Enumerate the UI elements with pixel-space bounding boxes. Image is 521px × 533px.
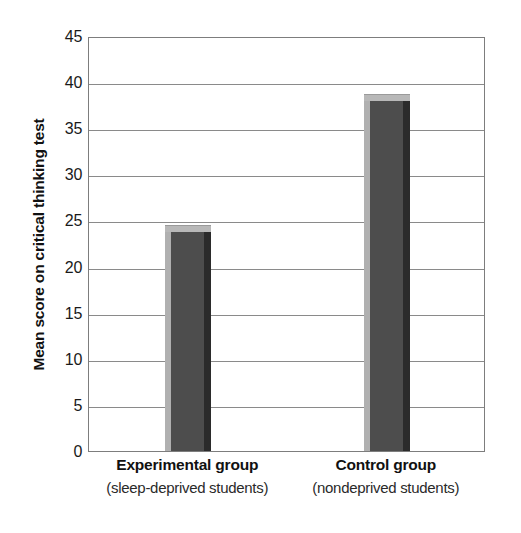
- x-axis-category-label: Experimental group: [88, 455, 287, 474]
- gridline: [89, 361, 484, 362]
- y-axis-tick-labels: 454035302520151050: [44, 37, 82, 452]
- gridline: [89, 84, 484, 85]
- bar-front-face: [370, 101, 403, 451]
- y-axis-tick-label: 10: [44, 352, 82, 368]
- y-axis-tick-label: 45: [44, 29, 82, 45]
- bar-chart-figure: Mean score on critical thinking test 454…: [0, 0, 521, 533]
- x-axis-category-sublabel: (sleep-deprived students): [88, 478, 287, 497]
- y-axis-tick-label: 5: [44, 398, 82, 414]
- plot-area: [88, 37, 485, 452]
- gridline: [89, 176, 484, 177]
- x-axis-category-labels: Experimental group(sleep-deprived studen…: [88, 455, 485, 515]
- y-axis-tick-label: 20: [44, 260, 82, 276]
- y-axis-tick-label: 35: [44, 121, 82, 137]
- y-axis-tick-label: 0: [44, 444, 82, 460]
- gridline: [89, 222, 484, 223]
- x-axis-category-sublabel: (nondeprived students): [287, 478, 486, 497]
- gridline: [89, 315, 484, 316]
- bar[interactable]: [165, 225, 211, 451]
- bar-right-shadow: [204, 232, 211, 451]
- gridline: [89, 130, 484, 131]
- y-axis-tick-label: 30: [44, 167, 82, 183]
- x-axis-category-label: Control group: [287, 455, 486, 474]
- x-axis-label-group: Control group(nondeprived students): [287, 455, 486, 497]
- bar-front-face: [171, 232, 204, 451]
- x-axis-label-group: Experimental group(sleep-deprived studen…: [88, 455, 287, 497]
- y-axis-tick-label: 25: [44, 213, 82, 229]
- bar-top-face: [364, 94, 410, 101]
- gridline: [89, 269, 484, 270]
- gridline: [89, 407, 484, 408]
- bar[interactable]: [364, 94, 410, 451]
- bar-right-shadow: [403, 101, 410, 451]
- bar-top-face: [165, 225, 211, 232]
- y-axis-tick-label: 15: [44, 306, 82, 322]
- y-axis-tick-label: 40: [44, 75, 82, 91]
